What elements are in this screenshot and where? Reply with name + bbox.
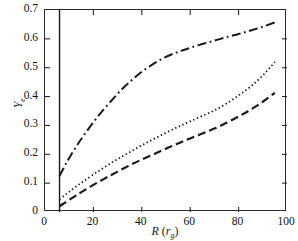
plot-canvas bbox=[45, 10, 287, 212]
y-tick-label: 0.6 bbox=[0, 32, 38, 44]
curve-upper bbox=[60, 22, 275, 176]
y-tick-label: 0.3 bbox=[0, 118, 38, 130]
figure: Ye 00.10.20.30.40.50.60.7020406080100 R … bbox=[0, 0, 298, 241]
plot-area bbox=[44, 9, 286, 211]
y-tick-label: 0.1 bbox=[0, 176, 38, 188]
y-tick-label: 0.4 bbox=[0, 90, 38, 102]
y-axis-label-base: Y bbox=[11, 102, 25, 109]
curve-lower bbox=[60, 93, 275, 206]
y-tick-label: 0 bbox=[0, 205, 38, 217]
x-axis-label-base: R bbox=[151, 224, 158, 238]
curve-middle bbox=[60, 62, 275, 199]
y-tick-label: 0.2 bbox=[0, 147, 38, 159]
y-tick-label: 0.5 bbox=[0, 61, 38, 73]
y-tick-label: 0.7 bbox=[0, 3, 38, 15]
x-axis-label: R (rg) bbox=[44, 224, 286, 240]
x-axis-unit-close: ) bbox=[175, 224, 179, 238]
